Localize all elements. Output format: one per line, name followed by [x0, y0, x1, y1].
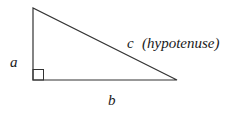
side-c-label: c [127, 36, 134, 51]
right-triangle-diagram [0, 0, 234, 115]
right-angle-marker [33, 70, 44, 81]
side-b-label: b [108, 93, 116, 108]
side-a-label: a [10, 55, 18, 70]
hypotenuse-label: (hypotenuse) [142, 36, 219, 51]
